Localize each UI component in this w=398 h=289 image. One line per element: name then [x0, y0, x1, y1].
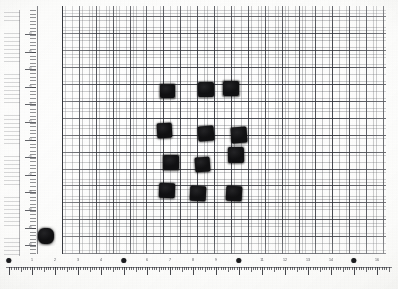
horizontal-ruler-tick [145, 267, 146, 270]
vertical-ruler-tick [30, 116, 36, 117]
vertical-ruler-tick [30, 112, 36, 113]
horizontal-ruler-tick [62, 267, 63, 270]
vertical-ruler-label: 30 [29, 68, 32, 71]
vertical-ruler-label: 25 [29, 86, 32, 89]
horizontal-ruler-tick [313, 267, 314, 270]
horizontal-ruler-tick [110, 267, 111, 270]
vertical-ruler-tick [30, 56, 36, 57]
horizontal-ruler-label: 11 [260, 258, 264, 262]
horizontal-ruler-tick [218, 267, 219, 270]
horizontal-ruler-tick [205, 267, 206, 272]
vertical-ruler-tick [30, 197, 36, 198]
vertical-ruler-tick [30, 98, 36, 99]
vertical-ruler-tick [30, 21, 36, 22]
horizontal-ruler-tick [37, 267, 38, 270]
horizontal-ruler-tick [136, 267, 137, 272]
vertical-ruler-tick [30, 200, 36, 201]
horizontal-ruler-label: 12 [283, 258, 287, 262]
horizontal-ruler-tick [39, 267, 40, 270]
horizontal-ruler-tick [320, 267, 321, 272]
horizontal-ruler-tick [76, 267, 77, 270]
vertical-ruler-strip-spine [19, 10, 20, 256]
horizontal-ruler-tick [322, 267, 323, 270]
horizontal-ruler-tick [347, 267, 348, 270]
horizontal-ruler-tick [294, 267, 295, 270]
vertical-ruler-tick [30, 161, 36, 162]
horizontal-ruler-tick [246, 267, 247, 270]
grid-left-border [62, 6, 63, 254]
horizontal-ruler-tick [9, 267, 10, 275]
vertical-ruler-label: 05 [29, 156, 32, 159]
horizontal-ruler-tick [253, 267, 254, 270]
horizontal-ruler-tick [44, 267, 45, 272]
ruler-major-dot-marker [121, 258, 126, 263]
vertical-ruler-tick [30, 239, 36, 240]
horizontal-ruler-tick [140, 267, 141, 270]
horizontal-ruler-tick [290, 267, 291, 270]
vertical-ruler-tick [30, 133, 36, 134]
horizontal-ruler-tick [69, 267, 70, 270]
vertical-ruler-tick [30, 91, 36, 92]
horizontal-ruler-tick [16, 267, 17, 270]
horizontal-ruler-tick [83, 267, 84, 270]
vertical-ruler-tick [30, 165, 36, 166]
vertical-ruler-tick [30, 204, 36, 205]
specimen-square [228, 147, 244, 163]
horizontal-ruler-tick [278, 267, 279, 270]
horizontal-ruler-tick [276, 267, 277, 270]
horizontal-ruler-tick [90, 267, 91, 272]
horizontal-ruler-tick [301, 267, 302, 270]
vertical-ruler-secondary-strip [4, 10, 20, 256]
vertical-ruler-tick [30, 24, 36, 25]
horizontal-ruler-label: 9 [215, 258, 217, 262]
horizontal-ruler-tick [331, 267, 332, 275]
vertical-ruler-tick [30, 130, 36, 131]
horizontal-ruler-tick [96, 267, 97, 270]
vertical-ruler-tick [30, 218, 36, 219]
horizontal-ruler-tick [382, 267, 383, 270]
vertical-ruler-tick [30, 126, 36, 127]
horizontal-ruler-tick [209, 267, 210, 270]
horizontal-ruler-tick [207, 267, 208, 270]
horizontal-ruler-tick [182, 267, 183, 272]
horizontal-ruler-tick [285, 267, 286, 275]
horizontal-ruler-tick [269, 267, 270, 270]
horizontal-ruler-tick [126, 267, 127, 270]
horizontal-ruler-tick [85, 267, 86, 270]
horizontal-ruler-tick [117, 267, 118, 270]
horizontal-ruler-tick [80, 267, 81, 270]
horizontal-ruler-tick [200, 267, 201, 270]
vertical-ruler-tick [30, 14, 36, 15]
horizontal-ruler-tick [23, 267, 24, 270]
vertical-ruler-label: 80 [29, 244, 32, 247]
horizontal-ruler-tick [324, 267, 325, 270]
horizontal-ruler-tick [55, 267, 56, 275]
horizontal-ruler-tick [99, 267, 100, 270]
horizontal-ruler-tick [248, 267, 249, 270]
vertical-ruler-tick [30, 59, 36, 60]
horizontal-ruler-label: 1 [31, 258, 33, 262]
specimen-square [230, 126, 247, 143]
vertical-ruler-tick [30, 77, 36, 78]
horizontal-ruler-tick [297, 267, 298, 272]
horizontal-ruler-tick [372, 267, 373, 270]
horizontal-ruler-tick [138, 267, 139, 270]
vertical-ruler-tick [30, 151, 36, 152]
horizontal-ruler-tick [25, 267, 26, 270]
specimen-square [197, 125, 214, 141]
horizontal-ruler-label: 14 [329, 258, 333, 262]
horizontal-ruler-tick [168, 267, 169, 270]
horizontal-ruler-tick [64, 267, 65, 270]
horizontal-ruler-tick [131, 267, 132, 270]
horizontal-ruler-tick [354, 267, 355, 275]
horizontal-ruler-tick [384, 267, 385, 270]
horizontal-ruler-tick [223, 267, 224, 270]
horizontal-ruler-label: 7 [169, 258, 171, 262]
horizontal-ruler-tick [251, 267, 252, 272]
horizontal-ruler-tick [18, 267, 19, 270]
vertical-ruler-label: 20 [29, 103, 32, 106]
horizontal-ruler-tick [129, 267, 130, 270]
vertical-ruler-tick [30, 109, 36, 110]
horizontal-ruler-tick [292, 267, 293, 270]
horizontal-ruler-tick [149, 267, 150, 270]
